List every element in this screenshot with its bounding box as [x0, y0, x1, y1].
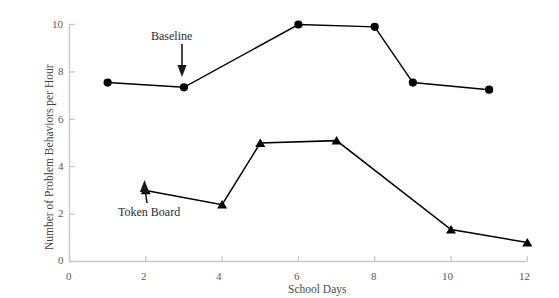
plot-area [0, 0, 559, 298]
series-layer [104, 20, 533, 246]
data-point-circle [180, 83, 188, 91]
data-point-circle [409, 78, 417, 86]
annotation-baseline-arrow [177, 44, 186, 77]
series-line [146, 141, 528, 243]
data-point-circle [485, 86, 493, 94]
annotation-token-board-arrow [140, 180, 149, 203]
data-point-circle [371, 23, 379, 31]
x-axis-ticks [70, 256, 528, 262]
chart-figure: Number of Problem Behaviors per Hour 10 … [0, 0, 559, 298]
y-axis-ticks [70, 25, 76, 262]
series-baseline [104, 20, 494, 93]
series-line [108, 25, 490, 90]
data-point-circle [104, 78, 112, 86]
data-point-circle [294, 20, 302, 28]
series-token-board [141, 136, 533, 246]
